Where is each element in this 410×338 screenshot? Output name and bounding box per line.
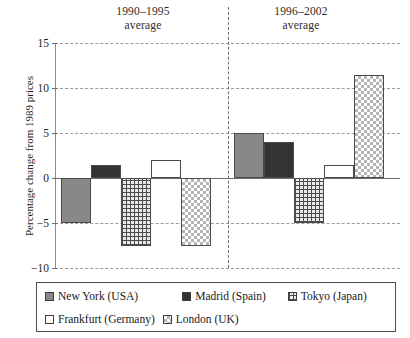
y-tick-label: 15 [38,37,50,49]
bar-frankfurt-group-1 [151,160,181,178]
bar-tokyo-group-2 [294,178,324,223]
gridline [55,268,400,269]
legend-label-london: London (UK) [176,313,239,325]
legend-label-new-york: New York (USA) [58,290,138,302]
plot-area: 151050−5−10 [55,43,400,268]
group-title-1990-1995: 1990–1995 average [88,4,198,32]
y-axis-line [55,43,56,268]
legend-item-frankfurt[interactable]: Frankfurt (Germany) [45,313,155,325]
legend-label-madrid: Madrid (Spain) [195,290,266,302]
open-white-swatch-icon [45,315,54,324]
tick-mark [52,178,58,179]
group-title-1996-2002: 1996–2002 average [246,4,356,32]
y-tick-label: 10 [38,82,50,94]
legend-item-new-york[interactable]: New York (USA) [45,290,138,302]
tick-mark [52,268,58,269]
y-tick-label: −10 [31,262,49,274]
tick-mark [52,43,58,44]
checker-swatch-icon [163,315,172,324]
grid-hatch-swatch-icon [288,292,297,301]
bar-frankfurt-group-2 [324,165,354,179]
legend-item-tokyo[interactable]: Tokyo (Japan) [288,290,367,302]
tick-mark [52,88,58,89]
tick-mark [52,223,58,224]
group-title-1-line2: average [88,18,198,32]
tick-mark [52,133,58,134]
solid-grey-swatch-icon [45,292,54,301]
y-tick-label: 5 [43,127,49,139]
bar-chart: 1990–1995 average 1996–2002 average Perc… [0,0,410,338]
bar-london-group-2 [354,75,384,179]
legend-label-frankfurt: Frankfurt (Germany) [58,313,155,325]
bar-new-york-group-1 [61,178,91,223]
legend-item-london[interactable]: London (UK) [163,313,239,325]
solid-dark-swatch-icon [182,292,191,301]
legend-row-2: Frankfurt (Germany) London (UK) [37,307,395,331]
legend-label-tokyo: Tokyo (Japan) [301,290,367,302]
bar-london-group-1 [181,178,211,246]
group-title-1-line1: 1990–1995 [88,4,198,18]
y-axis-label: Percentage change from 1989 prices [23,61,35,251]
group-title-2-line2: average [246,18,356,32]
legend: New York (USA) Madrid (Spain) Tokyo (Jap… [36,282,396,332]
y-tick-label: −5 [37,217,49,229]
bar-tokyo-group-1 [121,178,151,246]
bar-madrid-group-1 [91,165,121,179]
legend-row-1: New York (USA) Madrid (Spain) Tokyo (Jap… [37,284,395,308]
bar-new-york-group-2 [234,133,264,178]
bar-madrid-group-2 [264,142,294,178]
group-title-2-line1: 1996–2002 [246,4,356,18]
y-tick-label: 0 [43,172,49,184]
legend-item-madrid[interactable]: Madrid (Spain) [182,290,266,302]
group-divider [228,7,229,268]
